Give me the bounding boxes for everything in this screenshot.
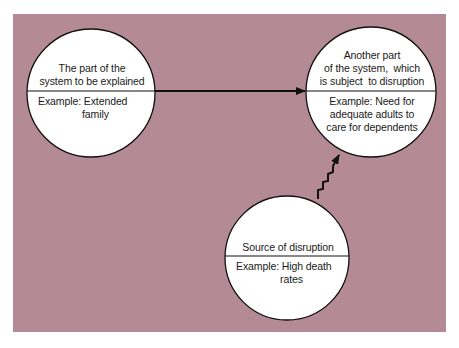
text-line: Another part (310, 49, 434, 62)
text-line: adequate adults to (310, 108, 434, 121)
node-explained-bottom-text: Example: Extended family (38, 95, 142, 121)
text-line: Source of disruption (228, 241, 348, 254)
node-disrupted-top-text: Another part of the system, which is sub… (310, 49, 434, 88)
node-disrupted-bottom-text: Example: Need for adequate adults to car… (310, 95, 434, 134)
node-explained-top-text: The part of the system to be explained (32, 62, 152, 88)
text-line: care for dependents (310, 121, 434, 134)
node-source-top-text: Source of disruption (228, 241, 348, 254)
text-line: The part of the (32, 62, 152, 75)
text-line: of the system, which (310, 62, 434, 75)
text-line: family (38, 108, 142, 121)
node-source (225, 196, 349, 320)
text-line: Example: Extended (38, 95, 142, 108)
text-line: Example: Need for (310, 95, 434, 108)
node-source-bottom-text: Example: High death rates (236, 260, 346, 286)
zigzag-arrow-source-to-disrupted (318, 155, 339, 199)
text-line: system to be explained (32, 75, 152, 88)
node-disrupted (306, 27, 436, 157)
node-explained (27, 29, 155, 157)
text-line: Example: High death (236, 260, 346, 273)
text-line: rates (236, 273, 346, 286)
text-line: is subject to disruption (310, 75, 434, 88)
